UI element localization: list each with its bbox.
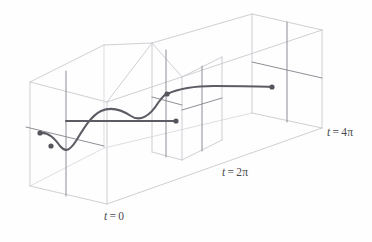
dot-endpoint-right	[269, 84, 274, 89]
edge-top-front-long	[107, 30, 322, 102]
label-t2pi-value: 2π	[236, 166, 248, 178]
label-t-equals-4pi: t=4π	[327, 126, 353, 138]
label-t0-equals: =	[108, 210, 119, 222]
cross-section-axes	[26, 22, 322, 196]
edge-t0-depth-top-right	[107, 43, 152, 102]
edge-t0-bottom-front	[30, 186, 107, 204]
label-t4pi-equals: =	[331, 126, 342, 138]
edge-top-back-long	[152, 14, 252, 43]
dot-crossing-point-2pi	[164, 91, 169, 96]
label-t0-value: 0	[118, 210, 124, 222]
label-t2pi-equals: =	[226, 166, 237, 178]
edge-t0-back-top	[104, 43, 152, 45]
label-t4pi-value: 4π	[341, 126, 353, 138]
upper-right-segment	[167, 86, 272, 94]
dot-initial-point-upper	[37, 130, 42, 135]
label-t2pi-variable: t	[222, 166, 226, 178]
label-t4pi-variable: t	[327, 126, 331, 138]
edge-t0i-bottom	[152, 152, 182, 160]
dot-endpoint-mid-segment	[173, 118, 178, 123]
solution-curve-group	[40, 86, 272, 150]
label-t0-variable: t	[104, 210, 108, 222]
axis-t0-horizontal	[26, 127, 104, 146]
differential-equation-prism-figure: t=0 t=2π t=4π	[0, 0, 372, 242]
dot-initial-point-lower	[48, 143, 53, 148]
label-t-equals-2pi: t=2π	[222, 166, 248, 178]
outer-prism-edges	[30, 14, 322, 204]
figure-canvas	[0, 0, 372, 242]
edge-back-bottom-long	[104, 113, 252, 148]
edge-t0-depth-bottom-left	[30, 148, 104, 186]
edge-t0i-top	[152, 43, 182, 77]
edge-t0-top-front	[30, 82, 107, 102]
label-t-equals-0: t=0	[104, 210, 124, 222]
edge-t0-depth-top-left	[30, 45, 104, 82]
